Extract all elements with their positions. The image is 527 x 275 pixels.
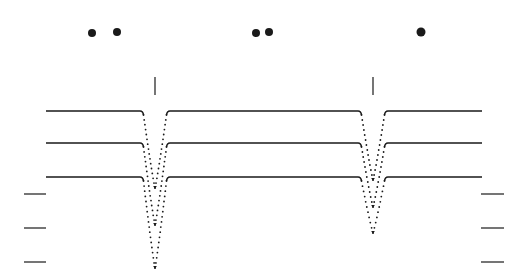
dip-dot [380,139,382,141]
dip-dot [153,219,155,221]
dip-dot [158,200,160,202]
dot [417,28,426,37]
dip-dot [143,151,145,153]
dip-dot [365,201,367,203]
dip-minimum-marker [371,178,375,181]
dip-dot [164,196,166,198]
dip-dot [362,185,364,187]
dip-dot [156,177,158,179]
dip-dot [155,182,157,184]
dip-dot [366,206,368,208]
dip-dot [371,227,373,229]
dip-dot [163,166,165,168]
dip-dot [147,143,149,145]
dip-dot [152,177,154,179]
dip-dot [143,185,145,187]
dip-dot [162,138,164,140]
dip-dot [371,174,373,176]
dip-dot [370,169,372,171]
dip-dot [166,146,168,148]
dip-dot [380,134,382,136]
dip-dot [152,214,154,216]
dot [252,29,260,37]
dip-dot [145,201,147,203]
dip-dot [143,119,145,121]
dip-dot [164,190,166,192]
dip-dot [374,169,376,171]
dip-dot [152,257,154,259]
dip-dot [370,196,372,198]
dip-dot [382,191,384,193]
dip-dot [156,257,158,259]
dot [88,29,96,37]
dip-dot [157,205,159,207]
dip-dot [144,156,146,158]
dip-dot [146,211,148,213]
dip-minimum-marker [153,266,157,269]
dip-dot [156,214,158,216]
dip-dot [151,247,153,249]
dip-dot [163,206,165,208]
dip-dot [365,139,367,141]
dip-dot [145,166,147,168]
dip-dot [384,180,386,182]
dip-dot [375,164,377,166]
dip-dot [378,149,380,151]
dip-dot [373,201,375,203]
dip-dot [374,196,376,198]
dip-dot [376,217,378,219]
dip-dot [382,156,384,158]
dip-dot [162,211,164,213]
dip-dot [368,186,370,188]
dip-dot [381,129,383,131]
dip-dot [373,174,375,176]
dip-dot [376,159,378,161]
dip-dot [158,242,160,244]
dip-dot [147,180,149,182]
dip-dot [147,175,149,177]
dip-dot [150,163,152,165]
dip-minimum-marker [153,223,157,226]
dip-dot [155,219,157,221]
scale-ticks [24,194,504,262]
dip-dot [365,171,367,173]
dip-dot [144,196,146,198]
dip-dot [155,262,157,264]
dip-dot [150,242,152,244]
dip-dot [361,146,363,148]
dip-dot [361,114,363,116]
dip-dot [157,252,159,254]
dip-dot [159,231,161,233]
dip-dot [380,166,382,168]
dip-dot [148,226,150,228]
dip-dot [371,201,373,203]
dip-dot [164,161,166,163]
dip-dot [366,149,368,151]
dip-dot [376,186,378,188]
dip-dot [378,176,380,178]
spectra-figure [0,0,527,275]
dip-dot [145,161,147,163]
dip-dot [379,171,381,173]
dip-dot [367,211,369,213]
dip-dot [382,124,384,126]
dip-dot [377,211,379,213]
dip-dot [158,168,160,170]
dip-dot [162,171,164,173]
dip-dot [164,124,166,126]
dip-dot [159,195,161,197]
dip-dot [157,173,159,175]
dip-dot [377,181,379,183]
dip-dot [146,171,148,173]
dot [113,28,121,36]
dip-dot [362,156,364,158]
dip-dot [161,216,163,218]
dip-dot [160,190,162,192]
trace-baseline [46,111,482,115]
dip-dot [163,134,165,136]
dip-dot [363,191,365,193]
dip-dot [153,262,155,264]
dip-dot [161,180,163,182]
dip-dot [379,144,381,146]
dip-dot [148,185,150,187]
